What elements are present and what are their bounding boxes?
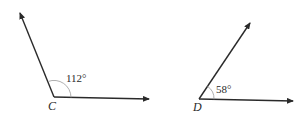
angle-d: 58° D (192, 23, 293, 114)
vertex-c-label: C (48, 99, 57, 113)
diagram-svg: 112° C 58° D (0, 0, 308, 118)
angle-d-measure-label: 58° (216, 83, 231, 95)
angle-arc-d (208, 86, 215, 99)
angle-diagram: 112° C 58° D (0, 0, 308, 118)
ray-c-left-arrow (20, 13, 54, 97)
ray-d-right-arrow (199, 99, 293, 101)
ray-c-right-arrow (54, 97, 149, 99)
vertex-d-label: D (192, 100, 202, 114)
angle-c-measure-label: 112° (66, 72, 87, 84)
angle-c: 112° C (20, 13, 149, 113)
